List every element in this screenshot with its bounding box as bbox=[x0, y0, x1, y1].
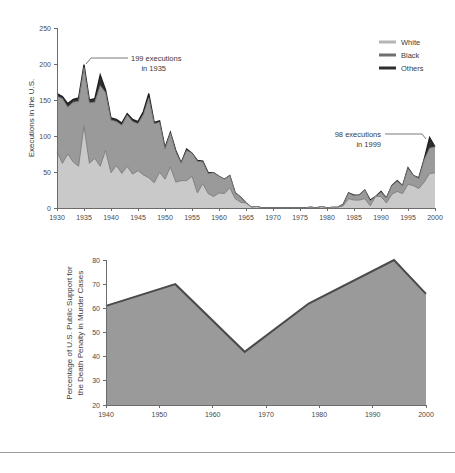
executions-y-tick-label: 200 bbox=[39, 61, 51, 68]
support-y-axis-title-line2: the Death Penalty in Murder Cases bbox=[76, 271, 85, 396]
support-y-ticks: 20304050607080 bbox=[92, 257, 106, 409]
support-x-tick-label: 1940 bbox=[98, 411, 114, 418]
executions-y-tick-label: 50 bbox=[43, 169, 51, 176]
executions-x-tick-label: 1990 bbox=[373, 214, 389, 221]
executions-y-axis-title: Executions in the U.S. bbox=[27, 79, 36, 158]
support-x-tick-label: 2000 bbox=[418, 411, 434, 418]
support-svg: 20304050607080 1940195019601970198019902… bbox=[0, 238, 455, 438]
executions-x-tick-label: 1975 bbox=[292, 214, 308, 221]
executions-x-tick-label: 1930 bbox=[49, 214, 65, 221]
executions-x-tick-label: 1935 bbox=[76, 214, 92, 221]
executions-y-tick-label: 0 bbox=[47, 205, 51, 212]
support-x-tick-label: 1970 bbox=[258, 411, 274, 418]
support-x-tick-label: 1980 bbox=[312, 411, 328, 418]
chart-executions: 050100150200250 193019351940194519501955… bbox=[0, 0, 455, 238]
executions-x-tick-label: 1950 bbox=[157, 214, 173, 221]
chart-support: 20304050607080 1940195019601970198019902… bbox=[0, 238, 455, 438]
legend-label-white: White bbox=[401, 38, 420, 47]
support-x-ticks: 1940195019601970198019902000 bbox=[98, 405, 434, 418]
support-y-tick-label: 20 bbox=[92, 402, 100, 409]
executions-svg: 050100150200250 193019351940194519501955… bbox=[0, 0, 455, 238]
page-canvas: 050100150200250 193019351940194519501955… bbox=[0, 0, 455, 473]
support-y-axis-title-line1: Percentage of U.S. Public Support for bbox=[65, 266, 74, 400]
executions-y-tick-label: 100 bbox=[39, 133, 51, 140]
executions-x-tick-label: 1985 bbox=[346, 214, 362, 221]
support-y-tick-label: 80 bbox=[92, 257, 100, 264]
legend-label-others: Others bbox=[401, 64, 424, 73]
support-x-tick-label: 1960 bbox=[205, 411, 221, 418]
executions-x-tick-label: 1970 bbox=[265, 214, 281, 221]
executions-x-tick-label: 2000 bbox=[427, 214, 443, 221]
annotation-1935-line2: in 1935 bbox=[141, 64, 166, 73]
support-y-tick-label: 40 bbox=[92, 353, 100, 360]
executions-x-tick-label: 1940 bbox=[103, 214, 119, 221]
executions-legend: WhiteBlackOthers bbox=[379, 38, 424, 73]
page-divider bbox=[0, 452, 455, 453]
executions-x-tick-label: 1960 bbox=[211, 214, 227, 221]
executions-y-ticks: 050100150200250 bbox=[39, 25, 57, 212]
executions-y-tick-label: 250 bbox=[39, 25, 51, 32]
support-y-tick-label: 60 bbox=[92, 305, 100, 312]
support-x-tick-label: 1950 bbox=[152, 411, 168, 418]
support-y-tick-label: 70 bbox=[92, 281, 100, 288]
executions-x-ticks: 1930193519401945195019551960196519701975… bbox=[49, 208, 443, 221]
executions-x-tick-label: 1995 bbox=[400, 214, 416, 221]
support-y-tick-label: 30 bbox=[92, 377, 100, 384]
executions-y-tick-label: 150 bbox=[39, 97, 51, 104]
annotation-1935-line1: 199 executions bbox=[131, 54, 182, 63]
annotation-1999-line2: in 1999 bbox=[356, 140, 381, 149]
legend-label-black: Black bbox=[401, 51, 420, 60]
support-y-tick-label: 50 bbox=[92, 329, 100, 336]
executions-x-tick-label: 1945 bbox=[130, 214, 146, 221]
executions-x-tick-label: 1965 bbox=[238, 214, 254, 221]
executions-x-tick-label: 1980 bbox=[319, 214, 335, 221]
annotation-1999-line1: 98 executions bbox=[335, 130, 382, 139]
support-x-tick-label: 1990 bbox=[365, 411, 381, 418]
executions-x-tick-label: 1955 bbox=[184, 214, 200, 221]
